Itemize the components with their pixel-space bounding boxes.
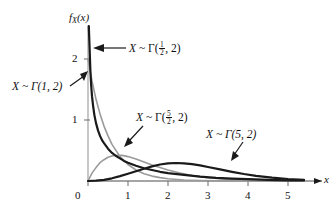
y-axis-label: fX(x) — [69, 11, 89, 25]
x-tick-0: 0 — [75, 189, 81, 201]
x-tick-5: 5 — [285, 189, 291, 201]
annotation-gamma-half-2-var: X — [129, 42, 136, 54]
y-tick-2: 2 — [72, 52, 78, 64]
annotation-gamma-fivehalf-2-tilde: ~ — [146, 111, 152, 123]
y-tick-1: 1 — [72, 113, 78, 125]
annotation-gamma-fivehalf-2-var: X — [136, 111, 143, 123]
annotation-gamma-fivehalf-2-fraction: 52 — [166, 110, 172, 126]
annotation-gamma-1-2-text: X ~ Γ(1, 2) — [12, 80, 62, 92]
annotation-gamma-fivehalf-2: X ~ Γ(52, 2) — [136, 110, 188, 126]
x-tick-1: 1 — [125, 189, 131, 201]
annotation-gamma-half-2-tail: , 2) — [165, 42, 180, 54]
x-axis-label: x — [324, 173, 329, 185]
annotation-gamma-5-2: X ~ Γ(5, 2) — [206, 128, 256, 140]
annotation-gamma-half-2: X ~ Γ(12, 2) — [129, 41, 181, 57]
x-tick-2: 2 — [165, 189, 171, 201]
x-tick-3: 3 — [205, 189, 211, 201]
annotation-gamma-half-2-denominator: 2 — [159, 49, 165, 57]
annotation-gamma-fivehalf-2-denominator: 2 — [166, 118, 172, 126]
y-axis-label-arg: (x) — [77, 11, 89, 23]
x-tick-4: 4 — [245, 189, 251, 201]
annotation-gamma-half-2-fraction: 12 — [159, 41, 165, 57]
annotation-gamma-5-2-text: X ~ Γ(5, 2) — [206, 128, 256, 140]
annotation-gamma-1-2: X ~ Γ(1, 2) — [12, 80, 62, 92]
annotation-gamma-half-2-gamma: Γ( — [148, 42, 158, 54]
annotation-gamma-fivehalf-2-gamma: Γ( — [155, 111, 165, 123]
annotation-gamma-half-2-tilde: ~ — [139, 42, 145, 54]
annotation-gamma-fivehalf-2-tail: , 2) — [172, 111, 187, 123]
